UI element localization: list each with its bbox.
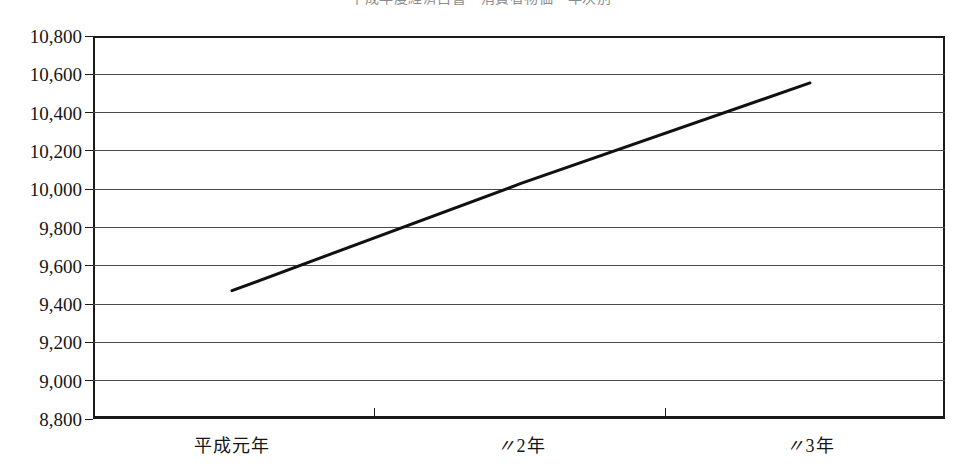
y-axis-tick-mark — [85, 74, 93, 75]
y-axis-tick-mark — [85, 304, 93, 305]
gridline — [93, 265, 945, 266]
y-axis-tick-label: 9,600 — [2, 256, 82, 275]
y-axis-tick-label: 8,800 — [2, 410, 82, 429]
y-axis-tick-mark — [85, 419, 93, 420]
y-axis-tick-label: 10,000 — [2, 180, 82, 199]
ditto-mark-icon: 〃 — [497, 436, 517, 456]
y-axis-tick-label: 10,200 — [2, 141, 82, 160]
y-axis-tick-mark — [85, 112, 93, 113]
chart-figure: 平成年度経済白書・消費者物価・年次別 10,80010,60010,40010,… — [0, 0, 961, 464]
y-axis-tick-label: 9,400 — [2, 295, 82, 314]
y-axis-tick-mark — [85, 342, 93, 343]
y-axis-tick-label: 9,800 — [2, 218, 82, 237]
page-title: 平成年度経済白書・消費者物価・年次別 — [0, 0, 961, 7]
gridline — [93, 189, 945, 190]
gridline — [93, 112, 945, 113]
y-axis-tick-mark — [85, 265, 93, 266]
y-axis-tick-label: 10,400 — [2, 103, 82, 122]
gridline — [93, 150, 945, 151]
gridline — [93, 342, 945, 343]
y-axis-tick-mark — [85, 380, 93, 381]
y-axis-tick-mark — [85, 150, 93, 151]
gridline — [93, 227, 945, 228]
gridline — [93, 74, 945, 75]
y-axis-tick-mark — [85, 227, 93, 228]
y-axis-tick-mark — [85, 36, 93, 37]
x-axis-tick-label: 平成元年 — [194, 431, 270, 457]
y-axis-tick-label: 10,800 — [2, 27, 82, 46]
x-axis-tick-label: 〃3年 — [786, 431, 835, 457]
y-axis-tick-mark — [85, 189, 93, 190]
gridline — [93, 304, 945, 305]
x-axis-tick-mark — [374, 408, 375, 419]
y-axis-tick-label: 9,000 — [2, 371, 82, 390]
ditto-mark-icon: 〃 — [786, 436, 806, 456]
y-axis-tick-label: 9,200 — [2, 333, 82, 352]
x-axis-tick-mark — [665, 408, 666, 419]
x-axis-tick-label: 〃2年 — [497, 431, 546, 457]
gridline — [93, 380, 945, 381]
y-axis-tick-label: 10,600 — [2, 65, 82, 84]
chart-title-strip: 平成年度経済白書・消費者物価・年次別 — [0, 0, 961, 9]
